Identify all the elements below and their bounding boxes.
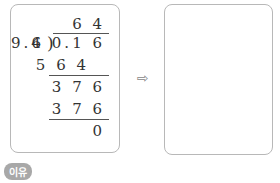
step1-product: 5 6 4 xyxy=(36,57,89,73)
reason-badge: 이유 xyxy=(4,163,32,180)
dividend: 6 0.1 6 xyxy=(32,35,105,51)
subtraction-line-2 xyxy=(49,119,109,120)
step1-remainder: 3 7 6 xyxy=(52,79,105,95)
division-work-box: 6 4 9.4 ) 6 0.1 6 5 6 4 3 7 6 3 7 6 0 xyxy=(10,4,120,153)
answer-box[interactable] xyxy=(164,4,273,155)
subtraction-line-1 xyxy=(49,75,109,76)
right-arrow-icon: ⇨ xyxy=(137,70,149,86)
quotient: 6 4 xyxy=(72,16,105,32)
final-remainder: 0 xyxy=(92,123,105,139)
step2-product: 3 7 6 xyxy=(52,101,105,117)
